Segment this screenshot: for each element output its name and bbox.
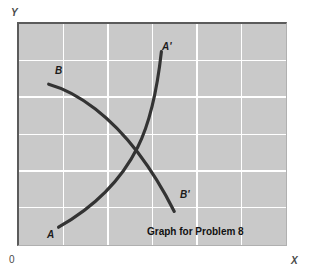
origin-label: 0 (9, 255, 15, 265)
curve-label-b: B (55, 66, 62, 76)
y-axis-label: Y (11, 8, 18, 18)
curve-label-a: A (47, 230, 54, 240)
curve-label-b-prime: B' (180, 190, 190, 200)
curve-label-a-prime: A' (162, 42, 172, 52)
figure-container: Y X 0 A A' B B' Graph for (0, 0, 309, 278)
plot-area: A A' B B' Graph for Problem 8 (17, 22, 287, 246)
curve-a-to-a-prime (59, 52, 162, 228)
curve-b-to-b-prime (49, 84, 175, 211)
curves (19, 24, 286, 245)
x-axis-label: X (291, 256, 298, 266)
chart-caption: Graph for Problem 8 (147, 227, 244, 237)
